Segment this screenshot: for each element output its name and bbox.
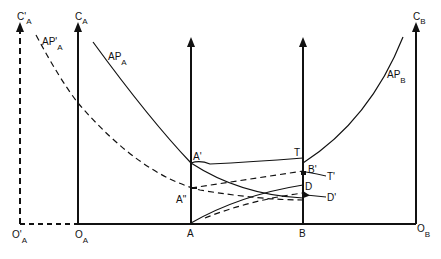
label-c-a: CA: [75, 11, 88, 26]
label-ap-b: APB: [387, 69, 406, 85]
label-ap-prime-a: AP'A: [42, 36, 63, 52]
arrowhead-icon: [187, 37, 195, 47]
arrowhead-icon: [74, 22, 82, 32]
diagram-canvas: C'A CA CB AP'A APA APB A' T B' T' A" D D…: [0, 0, 441, 259]
label-t: T: [294, 147, 300, 158]
curve-ap-b: [303, 37, 403, 163]
line-a-prime-t: [191, 158, 303, 164]
label-t-prime: T': [327, 171, 335, 182]
curve-ap-prime-a: [36, 35, 303, 200]
label-a: A: [187, 228, 194, 239]
label-b-prime: B': [308, 164, 317, 175]
marker-b-prime: [301, 171, 306, 175]
label-o-prime-a: O'A: [12, 229, 28, 245]
label-o-b: OB: [417, 223, 430, 239]
label-b: B: [299, 228, 306, 239]
label-c-prime-a: C'A: [17, 11, 32, 26]
arrowhead-icon: [412, 22, 420, 32]
label-o-a: OA: [75, 229, 89, 245]
label-a-prime: A': [193, 151, 202, 162]
pointer-d-prime: [306, 195, 326, 197]
label-ap-a: APA: [108, 51, 127, 67]
arrowhead-icon: [16, 22, 24, 32]
label-a-double-prime: A": [176, 194, 187, 205]
arrowhead-icon: [299, 37, 307, 47]
label-c-b: CB: [413, 11, 426, 26]
label-d-prime: D': [327, 192, 336, 203]
label-d: D: [305, 181, 312, 192]
